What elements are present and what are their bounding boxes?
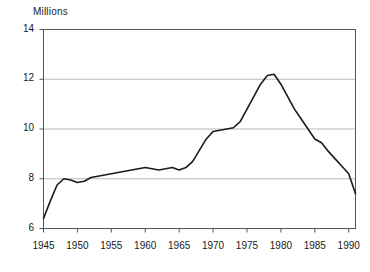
x-tick-label: 1990	[332, 240, 366, 251]
x-tick-label: 1955	[94, 240, 128, 251]
chart-container: Millions 68101214 1945195019551960196519…	[0, 0, 370, 272]
x-tick-label: 1985	[298, 240, 332, 251]
x-tick-label: 1980	[264, 240, 298, 251]
x-tick-label: 1945	[27, 240, 61, 251]
y-tick-label: 10	[8, 122, 34, 133]
x-tick-label: 1970	[196, 240, 230, 251]
x-tick-label: 1975	[230, 240, 264, 251]
x-tick-label: 1960	[128, 240, 162, 251]
line-chart-plot	[0, 0, 370, 272]
axis-tick-marks	[40, 30, 349, 233]
y-tick-label: 8	[8, 172, 34, 183]
y-tick-label: 14	[8, 23, 34, 34]
data-series-line	[44, 74, 356, 218]
x-tick-label: 1965	[162, 240, 196, 251]
x-tick-label: 1950	[60, 240, 94, 251]
y-tick-label: 12	[8, 72, 34, 83]
y-tick-label: 6	[8, 222, 34, 233]
